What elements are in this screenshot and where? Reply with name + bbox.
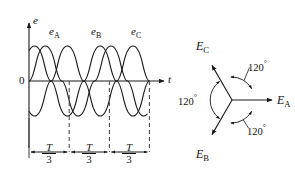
phasor-eb — [212, 100, 232, 135]
y-axis-label: e — [33, 15, 38, 26]
interval-label-3-denominator: 3 — [122, 154, 136, 165]
angle-arc-ab — [231, 112, 252, 124]
angle-label-ab-unit: ° — [263, 123, 266, 132]
phasor-ec — [212, 65, 232, 100]
origin-label: 0 — [19, 74, 25, 86]
angle-label-ab-value: 120 — [247, 126, 263, 137]
angle-label-ca-value: 120 — [248, 62, 264, 73]
three-phase-emf-figure: e t 0 eA eB eC T 3 T 3 T 3 EC EA EB 120°… — [0, 0, 295, 175]
phasor-label-ea: EA — [277, 94, 291, 109]
angle-arc-ca — [231, 77, 252, 89]
phasor-label-ec-sub: C — [203, 45, 209, 55]
curve-label-ea: eA — [49, 26, 60, 40]
interval-label-1: T 3 — [42, 142, 56, 165]
angle-label-ab: 120° — [247, 124, 266, 137]
phasor-label-ea-sub: A — [284, 99, 290, 109]
curve-label-eb: eB — [91, 26, 101, 40]
interval-label-1-denominator: 3 — [42, 154, 56, 165]
angle-arc-bc — [210, 82, 219, 119]
interval-label-3: T 3 — [122, 142, 136, 165]
interval-label-2-denominator: 3 — [82, 154, 96, 165]
angle-label-bc: 120° — [178, 94, 197, 107]
phasor-label-eb: EB — [196, 148, 209, 163]
waveform-plot-group — [29, 23, 164, 158]
x-axis-label: t — [168, 74, 171, 85]
interval-label-2: T 3 — [82, 142, 96, 165]
curve-label-ea-sub: A — [54, 31, 60, 40]
angle-label-ca-unit: ° — [264, 59, 267, 68]
phasor-label-ec: EC — [196, 40, 209, 55]
phasor-label-eb-sub: B — [203, 153, 209, 163]
angle-label-bc-unit: ° — [194, 93, 197, 102]
angle-label-bc-value: 120 — [178, 96, 194, 107]
curve-label-ec-sub: C — [136, 31, 141, 40]
angle-label-ca: 120° — [248, 60, 267, 73]
curve-label-ec: eC — [131, 26, 141, 40]
curve-label-eb-sub: B — [96, 31, 101, 40]
